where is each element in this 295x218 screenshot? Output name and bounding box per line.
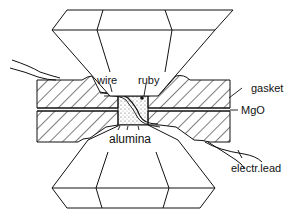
label-electr-lead: electr.lead [231, 163, 281, 174]
label-mgo: MgO [241, 105, 265, 116]
label-alumina: alumina [109, 133, 151, 145]
label-wire: wire [97, 75, 117, 86]
label-ruby: ruby [138, 75, 159, 86]
diamond-anvil-cell-diagram: wire ruby gasket MgO alumina electr.lead [0, 0, 295, 218]
ruby-chip [140, 96, 144, 100]
label-gasket: gasket [251, 83, 283, 94]
